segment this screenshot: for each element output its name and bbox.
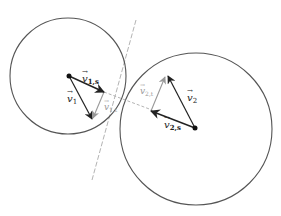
label-v2t-arrow: → — [140, 81, 145, 88]
tangent-line — [92, 20, 136, 180]
center-1 — [67, 74, 72, 79]
label-v2s-arrow: → — [164, 114, 170, 122]
center-2 — [193, 126, 198, 131]
label-v1s-arrow: → — [82, 68, 88, 76]
label-v1-arrow: → — [67, 88, 73, 96]
label-v2-arrow: → — [187, 87, 193, 95]
v1-tangential-vector — [93, 92, 104, 118]
collision-diagram: v1,s → v1 → v1,t → v2,t → v2 → v2,s → — [0, 0, 281, 216]
label-v1t-arrow: → — [104, 97, 109, 104]
